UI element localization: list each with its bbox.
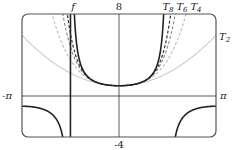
legend-label-T8: T8 bbox=[162, 1, 174, 14]
legend-label-f: f bbox=[70, 1, 77, 12]
legend-label-T6: T6 bbox=[176, 1, 188, 14]
x-tick-label-right: π bbox=[219, 90, 227, 101]
chart: 8 -4 -π π f T8 T6 T4 T2 bbox=[0, 0, 233, 150]
y-tick-label-bottom: -4 bbox=[114, 139, 124, 150]
y-tick-label-top: 8 bbox=[116, 1, 122, 12]
x-tick-label-left: -π bbox=[2, 90, 12, 101]
legend-label-T2: T2 bbox=[219, 31, 231, 44]
series-line-f-branch-2 bbox=[168, 106, 216, 150]
series-line-f-branch-0 bbox=[22, 0, 71, 150]
legend-label-T4: T4 bbox=[190, 1, 201, 14]
